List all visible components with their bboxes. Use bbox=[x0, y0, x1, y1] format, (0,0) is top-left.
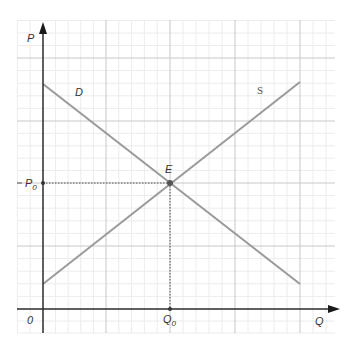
origin-label: 0 bbox=[27, 314, 34, 326]
x-axis-arrow-icon bbox=[328, 305, 340, 313]
supply-demand-diagram: P Q 0 D S E P0 Q0 bbox=[0, 0, 355, 349]
p0-tick-point bbox=[41, 181, 45, 185]
supply-label: S bbox=[257, 84, 263, 96]
q0-tick-point bbox=[168, 307, 172, 311]
equilibrium-label: E bbox=[165, 163, 173, 175]
y-axis-arrow-icon bbox=[39, 22, 47, 34]
x-axis-label: Q bbox=[315, 315, 324, 327]
demand-label: D bbox=[75, 86, 83, 98]
y-axis-label: P bbox=[27, 32, 35, 44]
price-label-subscript: 0 bbox=[32, 183, 37, 192]
price-label: P0 bbox=[25, 177, 37, 192]
quantity-label-subscript: 0 bbox=[172, 319, 177, 328]
svg-text:P0: P0 bbox=[25, 177, 37, 192]
grid-minor bbox=[17, 20, 335, 333]
equilibrium-point bbox=[167, 180, 173, 186]
